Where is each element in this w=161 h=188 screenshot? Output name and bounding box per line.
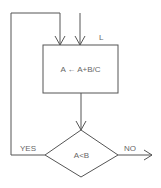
process-to-decision-arrow bbox=[76, 93, 86, 130]
flowchart-svg: A ← A+B/C L A<B YES NO bbox=[0, 0, 161, 188]
process-text: A ← A+B/C bbox=[60, 65, 100, 74]
no-label: NO bbox=[124, 144, 136, 153]
process-box: A ← A+B/C bbox=[43, 45, 118, 93]
yes-label: YES bbox=[20, 144, 36, 153]
entry-arrow bbox=[75, 13, 85, 45]
decision-diamond: A<B bbox=[45, 130, 118, 177]
process-tag-label: L bbox=[99, 33, 104, 42]
decision-text: A<B bbox=[74, 151, 89, 160]
yes-loop-arrow bbox=[11, 13, 65, 155]
flowchart: A ← A+B/C L A<B YES NO bbox=[0, 0, 161, 188]
